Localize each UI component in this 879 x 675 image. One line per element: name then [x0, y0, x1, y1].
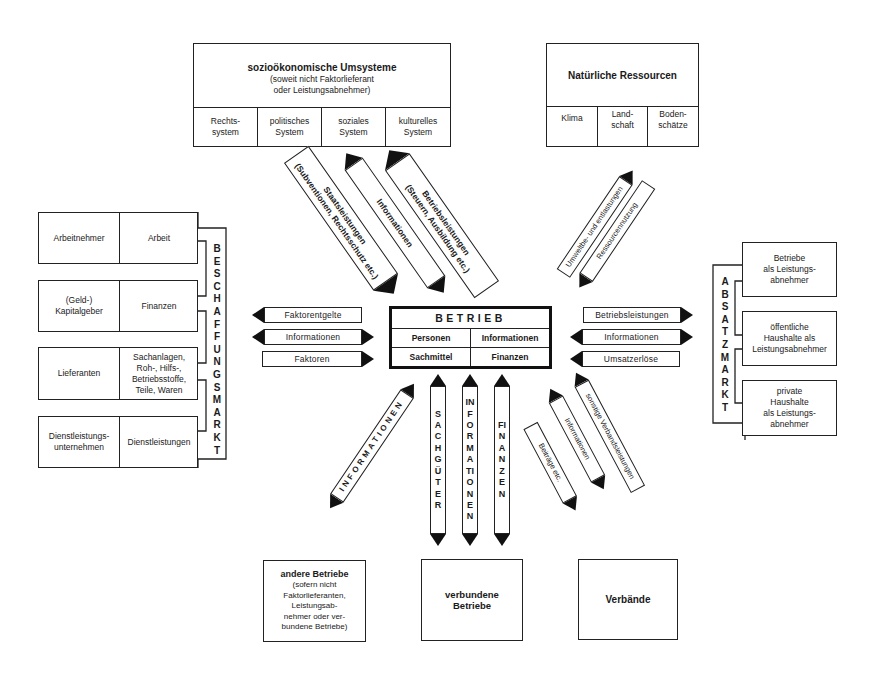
beschaffung-row-finanzen: (Geld-) Kapitalgeber Finanzen: [38, 280, 198, 332]
informationen-cell: Informationen: [471, 329, 549, 347]
betriebsleistungen-label: Betriebsleistungen: [583, 307, 681, 323]
faktorentgelte-label: Faktorentgelte: [264, 307, 362, 323]
andere-betriebe-title: andere Betriebe: [280, 569, 348, 580]
beschaffung-row-dienstleistungen: Dienstleistungs- unternehmen Dienstleist…: [38, 416, 198, 468]
umsysteme-subtitle: (soweit nicht Faktorlieferant oder Leist…: [270, 74, 374, 96]
informationen-beschaffung-arrow: Informationen: [252, 329, 374, 345]
personen-cell: Personen: [392, 329, 470, 347]
umsatzerloese-label: Umsatzerlöse: [582, 351, 680, 367]
faktorentgelte-arrow: Faktorentgelte: [252, 307, 362, 323]
betrieb-title: BETRIEB: [392, 309, 549, 328]
natuerliche-ressourcen-box: Natürliche Ressourcen Klima Land- schaft…: [546, 43, 699, 147]
absatz-row-betriebe: Betriebe als Leistungs- abnehmer: [742, 242, 837, 297]
verbaende-box: Verbände: [578, 559, 678, 640]
sachgueter-arrow: SACHGÜTER: [430, 374, 446, 546]
andere-betriebe-box: andere Betriebe (sofern nicht Faktorlief…: [263, 560, 366, 642]
beschaffung-row-arbeit: Arbeitnehmer Arbeit: [38, 212, 198, 264]
faktoren-arrow: Faktoren: [262, 351, 374, 367]
finanzen-cell: Finanzen: [120, 281, 198, 331]
betrieb-box: BETRIEB Personen Informationen Sachmitte…: [389, 306, 552, 369]
verbundene-betriebe-box: verbundene Betriebe: [421, 559, 523, 641]
informationen-absatz-label: Informationen: [582, 329, 681, 345]
beschaffung-row-lieferanten: Lieferanten Sachanlagen, Roh-, Hilfs-, B…: [38, 347, 198, 400]
klima-cell: Klima: [547, 110, 597, 126]
sachgueter-label: SACHGÜTER: [433, 409, 443, 512]
absatz-row-oeffentliche: öffentliche Haushalte als Leistungsabneh…: [742, 311, 837, 366]
arbeitnehmer-cell: Arbeitnehmer: [39, 213, 119, 263]
umsatzerloese-arrow: Umsatzerlöse: [570, 351, 680, 367]
private-haushalte-cell: private Haushalte als Leistungs- abnehme…: [743, 381, 836, 435]
beschaffungsmarkt-bracket: [190, 205, 230, 475]
informationen-verbundene-label: INFORMATIONEN: [465, 397, 475, 522]
informationen-andere-label: INFORMATIONEN: [330, 389, 414, 502]
finanzen-center-cell: Finanzen: [471, 348, 549, 366]
umsysteme-title: sozioökonomische Umsysteme: [248, 62, 397, 73]
finanzen-verbundene-label: FINANZEN: [497, 420, 507, 500]
dienstleistungen-cell: Dienstleistungen: [120, 417, 198, 467]
landschaft-cell: Land- schaft: [598, 108, 647, 132]
kulturelles-system-cell: kulturelles System: [386, 108, 450, 146]
informationen-beschaffung-label: Informationen: [264, 329, 362, 345]
arbeit-cell: Arbeit: [120, 213, 198, 263]
informationen-andere-arrow: INFORMATIONEN: [323, 379, 420, 512]
informationen-absatz-arrow: Informationen: [570, 329, 693, 345]
bodenschaetze-cell: Boden- schätze: [648, 108, 698, 132]
informationen-verbundene-arrow: INFORMATIONEN: [462, 374, 478, 546]
andere-betriebe-subtitle: (sofern nicht Faktorlieferanten, Leistun…: [282, 580, 348, 633]
verbundene-betriebe-title: verbundene Betriebe: [422, 560, 522, 640]
umsysteme-box: sozioökonomische Umsysteme (soweit nicht…: [193, 43, 451, 147]
rechtssystem-cell: Rechts- system: [194, 108, 257, 146]
absatz-row-private: private Haushalte als Leistungs- abnehme…: [742, 380, 837, 436]
sachmittel-cell: Sachmittel: [392, 348, 470, 366]
dienstleistungsunternehmen-cell: Dienstleistungs- unternehmen: [39, 417, 119, 467]
informationen-andere-text: INFORMATIONEN: [338, 398, 407, 494]
lieferanten-cell: Lieferanten: [39, 348, 119, 399]
faktoren-label: Faktoren: [262, 351, 362, 367]
verbaende-title: Verbände: [579, 560, 677, 639]
betriebsleistungen-arrow: Betriebsleistungen: [583, 307, 693, 323]
soziales-system-cell: soziales System: [322, 108, 385, 146]
kapitalgeber-cell: (Geld-) Kapitalgeber: [39, 281, 119, 331]
sachanlagen-cell: Sachanlagen, Roh-, Hilfs-, Betriebsstoff…: [120, 348, 198, 399]
ressourcen-title: Natürliche Ressourcen: [547, 44, 698, 106]
beschaffungsmarkt-label: BESCHAFFUNGSMARKT: [211, 243, 223, 457]
politisches-system-cell: politisches System: [258, 108, 321, 146]
oeffentliche-haushalte-cell: öffentliche Haushalte als Leistungsabneh…: [743, 312, 836, 365]
finanzen-verbundene-arrow: FINANZEN: [494, 374, 510, 546]
betriebe-abnehmer-cell: Betriebe als Leistungs- abnehmer: [743, 243, 836, 296]
absatzmarkt-label: ABSATZMARKT: [719, 276, 731, 415]
